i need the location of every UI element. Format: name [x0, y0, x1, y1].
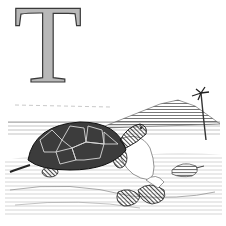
landscape-scene	[0, 0, 226, 226]
engraving-illustration: T	[0, 0, 226, 226]
horizon-line	[15, 105, 110, 107]
